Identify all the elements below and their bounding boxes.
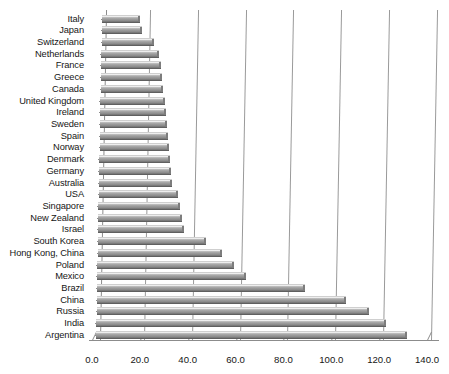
bar-end-cap: [164, 109, 166, 115]
category-label: Germany: [46, 166, 84, 176]
bar: [99, 155, 170, 163]
category-label: Netherlands: [35, 49, 84, 59]
category-label: South Korea: [33, 236, 84, 246]
category-label: Ireland: [56, 107, 84, 117]
bar: [96, 331, 407, 339]
bar-end-cap: [169, 168, 171, 174]
bar: [100, 97, 165, 105]
bar-end-cap: [160, 74, 162, 80]
bar: [97, 272, 245, 280]
bar: [98, 214, 182, 222]
value-axis-line: [89, 340, 439, 341]
bar: [97, 296, 346, 304]
gridline: [431, 10, 438, 340]
value-axis-tick-label: 40.0: [178, 354, 197, 365]
bar: [100, 132, 168, 140]
bar: [101, 73, 162, 81]
gridline: [383, 10, 390, 340]
category-label: India: [64, 318, 84, 328]
bar-end-cap: [303, 285, 305, 291]
bar: [100, 143, 169, 151]
bar-end-cap: [178, 203, 180, 209]
bar-end-cap: [232, 262, 234, 268]
value-axis-tick-label: 80.0: [274, 354, 293, 365]
bar: [101, 50, 158, 58]
bar: [99, 167, 171, 175]
category-label: China: [60, 295, 84, 305]
category-label: Brazil: [61, 283, 84, 293]
category-label: Argentina: [45, 330, 84, 340]
category-label: Sweden: [51, 119, 84, 129]
bar-end-cap: [140, 27, 142, 33]
category-label: New Zealand: [30, 213, 84, 223]
category-label: Spain: [61, 131, 84, 141]
value-axis-tick-label: 20.0: [131, 354, 150, 365]
category-label: Poland: [56, 260, 84, 270]
bar-end-cap: [157, 51, 159, 57]
bar-end-cap: [176, 191, 178, 197]
bar: [102, 15, 140, 23]
bar-end-cap: [180, 215, 182, 221]
category-label: United Kingdom: [19, 96, 84, 106]
category-label: Italy: [67, 14, 84, 24]
value-axis-tick-label: 140.0: [415, 354, 439, 365]
bar-end-cap: [170, 180, 172, 186]
bar-end-cap: [384, 320, 386, 326]
bar-end-cap: [220, 250, 222, 256]
bar-end-cap: [182, 226, 184, 232]
bar: [102, 26, 143, 34]
bar: [99, 179, 172, 187]
category-label: Hong Kong, China: [10, 248, 84, 258]
value-axis-tick-label: 0.0: [85, 354, 98, 365]
category-label: Mexico: [55, 271, 84, 281]
category-label: Australia: [49, 178, 84, 188]
bar-end-cap: [161, 86, 163, 92]
bar-end-cap: [405, 332, 407, 338]
bar: [101, 85, 163, 93]
bar: [97, 307, 370, 315]
bar: [102, 38, 155, 46]
gridline: [335, 10, 342, 340]
value-axis-tick-label: 100.0: [319, 354, 343, 365]
bar-end-cap: [165, 121, 167, 127]
bar-end-cap: [152, 39, 154, 45]
plot-area: 0.020.040.060.080.0100.0120.0140.0: [89, 8, 439, 344]
bar-end-cap: [168, 156, 170, 162]
bar-end-cap: [159, 62, 161, 68]
bar-chart: ItalyJapanSwitzerlandNetherlandsFranceGr…: [0, 0, 449, 374]
bar-end-cap: [244, 273, 246, 279]
category-label: Greece: [54, 72, 84, 82]
category-label: Singapore: [43, 201, 85, 211]
category-label: Russia: [56, 306, 84, 316]
bar-end-cap: [138, 16, 140, 22]
bar: [100, 108, 166, 116]
bar: [98, 202, 179, 210]
bar: [96, 319, 386, 327]
bar-end-cap: [163, 98, 165, 104]
value-axis-tick-label: 120.0: [367, 354, 391, 365]
category-label: USA: [65, 189, 84, 199]
bar-end-cap: [167, 144, 169, 150]
value-axis-tick-label: 60.0: [226, 354, 245, 365]
category-label: Norway: [53, 142, 84, 152]
category-label: Denmark: [47, 154, 84, 164]
category-label: France: [56, 60, 84, 70]
category-label: Japan: [59, 25, 84, 35]
bar: [100, 120, 167, 128]
category-label: Switzerland: [37, 37, 84, 47]
bar: [98, 237, 206, 245]
bar-end-cap: [204, 238, 206, 244]
bar: [98, 225, 184, 233]
bar: [101, 61, 161, 69]
category-axis-labels: ItalyJapanSwitzerlandNetherlandsFranceGr…: [0, 0, 89, 340]
bar-end-cap: [166, 133, 168, 139]
bar: [99, 190, 178, 198]
bar: [97, 261, 233, 269]
bar: [97, 284, 305, 292]
bar-end-cap: [344, 297, 346, 303]
bar: [98, 249, 222, 257]
bar-end-cap: [367, 308, 369, 314]
category-label: Israel: [62, 224, 84, 234]
category-label: Canada: [52, 84, 84, 94]
